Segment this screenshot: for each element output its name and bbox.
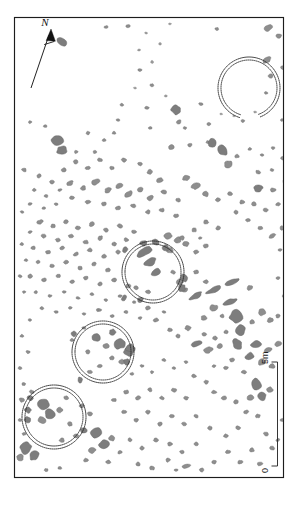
stone-feature [241, 119, 245, 122]
stone-feature [138, 69, 142, 72]
stone-feature [169, 414, 174, 417]
stone-feature [208, 138, 216, 147]
stone-feature [32, 188, 36, 191]
stone-feature [50, 180, 55, 184]
stone-feature [255, 414, 260, 418]
stone-feature [36, 260, 40, 263]
stone-feature [86, 350, 90, 354]
stone-feature [217, 344, 222, 349]
stone-feature [42, 207, 45, 210]
stone-feature [193, 270, 198, 274]
stone-feature [188, 143, 192, 147]
scale-bar-top-label: 5m [260, 351, 270, 364]
stone-feature [168, 328, 173, 332]
stone-feature [111, 399, 116, 402]
stone-feature [26, 351, 30, 354]
stone-feature [133, 87, 136, 89]
stone-feature [137, 187, 143, 192]
stone-feature [254, 111, 257, 113]
stone-feature [134, 286, 139, 290]
stone-feature [271, 147, 275, 150]
stone-feature [136, 462, 140, 466]
stone-feature [22, 383, 26, 386]
stone-feature [151, 60, 154, 63]
stone-feature [164, 95, 167, 97]
north-arrow-label: N [40, 16, 49, 28]
stone-feature [118, 295, 122, 298]
stone-feature [172, 367, 176, 370]
stone-feature [194, 442, 198, 446]
stone-feature [230, 358, 235, 362]
stone-feature [46, 250, 51, 253]
stone-feature [252, 202, 257, 206]
stone-feature [116, 119, 120, 121]
stone-feature [44, 469, 48, 472]
stone-feature [162, 311, 166, 314]
stone-feature [83, 240, 88, 244]
stone-feature [250, 320, 255, 324]
stone-feature [68, 422, 73, 426]
stone-feature [28, 319, 31, 322]
stone-feature [258, 226, 263, 229]
stone-feature [54, 311, 58, 313]
site-plan-figure: N 5m 0 [0, 0, 298, 519]
site-plan-canvas: N 5m 0 [0, 0, 298, 519]
stone-feature [75, 226, 80, 230]
stone-feature [112, 131, 116, 134]
stone-feature [102, 202, 107, 206]
stone-feature [104, 299, 108, 302]
stone-feature [276, 277, 280, 280]
stone-feature [150, 466, 155, 470]
stone-feature [247, 395, 254, 401]
stone-feature [124, 390, 129, 394]
stone-feature [122, 410, 127, 413]
stone-feature [92, 262, 96, 266]
stone-feature [106, 268, 111, 272]
stone-feature [93, 150, 96, 153]
stone-feature [62, 291, 66, 294]
stone-feature [98, 158, 103, 162]
stone-feature [264, 92, 267, 95]
stone-feature [83, 276, 88, 280]
stone-feature [183, 127, 186, 130]
stone-feature [267, 318, 273, 323]
stone-feature [18, 367, 22, 370]
stone-feature [137, 49, 140, 51]
stone-feature [87, 412, 92, 416]
scale-bar-bottom-label: 0 [260, 468, 270, 473]
stone-feature [82, 313, 86, 315]
stone-feature [159, 208, 164, 212]
stone-feature [203, 244, 208, 248]
stone-feature [44, 195, 48, 198]
stone-feature [43, 125, 47, 128]
stone-feature [57, 146, 67, 154]
stone-feature [212, 460, 217, 464]
stone-feature [199, 237, 202, 239]
stone-feature [225, 161, 232, 168]
stone-feature [40, 307, 44, 310]
stone-feature [126, 24, 130, 27]
stone-feature [34, 291, 37, 294]
stone-feature [103, 343, 109, 348]
stone-feature [173, 214, 178, 218]
stone-feature [174, 469, 178, 471]
stone-feature [92, 334, 100, 342]
stone-feature [98, 236, 102, 241]
stone-feature [268, 74, 273, 78]
stone-feature [50, 264, 55, 267]
stone-feature [263, 208, 268, 212]
stone-feature [78, 266, 82, 270]
stone-feature [24, 259, 28, 262]
stone-feature [138, 317, 142, 320]
stone-feature [22, 432, 26, 435]
stone-feature [85, 166, 90, 169]
stone-feature [124, 311, 128, 314]
stone-feature [192, 228, 196, 232]
stone-feature [98, 309, 102, 312]
stone-feature [56, 274, 60, 277]
stone-feature [207, 122, 211, 125]
stone-feature [73, 160, 77, 164]
stone-feature [148, 127, 152, 130]
stone-feature [70, 196, 75, 199]
stone-feature [182, 175, 189, 180]
